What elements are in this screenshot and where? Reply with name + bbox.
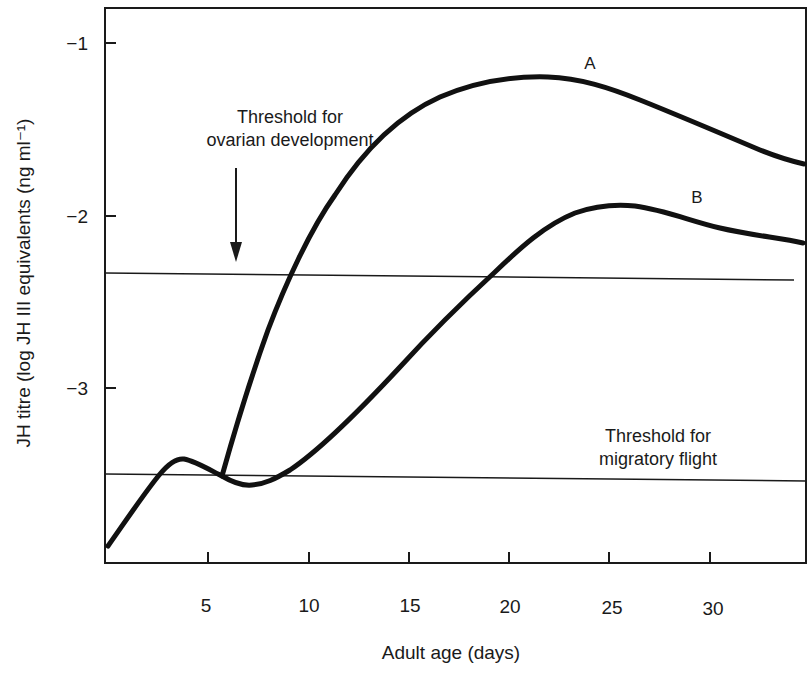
series-b-label: B xyxy=(691,188,702,207)
x-tick-label: 20 xyxy=(499,596,520,617)
x-axis-ticks xyxy=(208,552,710,563)
series-a-label: A xyxy=(584,54,596,73)
x-tick-label: 5 xyxy=(201,595,212,616)
y-axis-title: JH titre (log JH III equivalents (ng ml⁻… xyxy=(13,119,34,448)
x-tick-label: 30 xyxy=(702,598,723,619)
ovarian-threshold-label-line2: ovarian development xyxy=(206,130,373,150)
y-tick-label: −3 xyxy=(66,378,88,399)
x-tick-label: 15 xyxy=(399,595,420,616)
x-tick-label: 10 xyxy=(298,595,319,616)
ovarian-threshold-label-line1: Threshold for xyxy=(237,107,343,127)
down-arrow-icon xyxy=(230,168,242,262)
migratory-threshold-line xyxy=(105,474,806,481)
x-axis-title: Adult age (days) xyxy=(382,642,520,663)
migratory-threshold-label-line1: Threshold for xyxy=(605,426,711,446)
x-tick-label: 25 xyxy=(601,597,622,618)
y-axis-tick-labels: −1 −2 −3 xyxy=(66,33,88,399)
x-axis-tick-labels: 5 10 15 20 25 30 xyxy=(201,595,724,619)
migratory-threshold-label-line2: migratory flight xyxy=(599,449,717,469)
y-axis-ticks xyxy=(105,43,116,388)
y-tick-label: −1 xyxy=(66,33,88,54)
ovarian-threshold-line xyxy=(105,273,794,280)
y-tick-label: −2 xyxy=(66,206,88,227)
series-b-curve xyxy=(222,205,803,485)
jh-titre-chart: −1 −2 −3 5 10 15 20 25 30 Adult age (day… xyxy=(0,0,812,678)
